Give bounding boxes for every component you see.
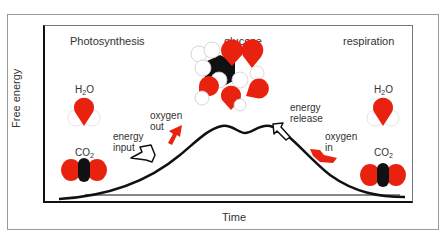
energy-input-arrow-icon (131, 145, 155, 162)
right-co2-molecule-icon (360, 163, 406, 187)
diagram-graphics (0, 0, 446, 235)
left-water-molecule-icon (68, 98, 100, 126)
oxygen-out-arrow-icon (168, 125, 182, 145)
energy-release-arrow-icon (273, 123, 290, 140)
free-energy-curve (59, 126, 405, 199)
left-co2-molecule-icon (61, 158, 107, 182)
glucose-molecule-icon (191, 39, 269, 111)
right-water-molecule-icon (367, 98, 399, 126)
